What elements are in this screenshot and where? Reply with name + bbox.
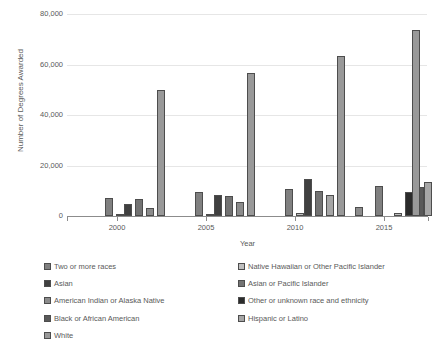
bar xyxy=(285,189,293,216)
legend-swatch-icon xyxy=(238,280,245,287)
x-axis-title: Year xyxy=(67,239,428,248)
bars-layer xyxy=(67,14,428,216)
legend-item[interactable]: White xyxy=(44,327,234,344)
legend-item[interactable]: American Indian or Alaska Native xyxy=(44,292,234,309)
legend: Two or more racesAsianAmerican Indian or… xyxy=(40,258,432,344)
bar xyxy=(412,30,420,216)
x-axis-line xyxy=(67,216,428,217)
bar-chart: 80,00060,00040,00020,0000 Number of Degr… xyxy=(0,0,438,350)
legend-swatch-icon xyxy=(44,315,51,322)
bar xyxy=(225,196,233,216)
legend-item-label: White xyxy=(54,331,73,340)
y-axis: 80,00060,00040,00020,0000 xyxy=(0,0,63,230)
bar xyxy=(195,192,203,216)
x-tick-label: 2010 xyxy=(272,223,318,232)
legend-item-label: American Indian or Alaska Native xyxy=(54,296,164,305)
legend-swatch-icon xyxy=(44,297,51,304)
x-tick-label: 2000 xyxy=(94,223,140,232)
x-tick-mark xyxy=(295,217,296,221)
x-axis-endcap xyxy=(428,217,429,221)
legend-item[interactable]: Asian or Pacific Islander xyxy=(238,275,428,292)
y-tick-label: 40,000 xyxy=(3,111,63,119)
legend-swatch-icon xyxy=(44,280,51,287)
legend-item[interactable]: Hispanic or Latino xyxy=(238,310,428,327)
bar xyxy=(146,208,154,216)
bar xyxy=(157,90,165,216)
x-tick-label: 2005 xyxy=(183,223,229,232)
legend-item[interactable]: Black or African American xyxy=(44,310,234,327)
x-axis-endcap xyxy=(67,217,68,221)
bar xyxy=(355,207,363,216)
y-tick-label: 0 xyxy=(3,212,63,220)
bar xyxy=(124,204,132,216)
y-tick-label: 20,000 xyxy=(3,162,63,170)
legend-item-label: Hispanic or Latino xyxy=(248,314,308,323)
x-tick-label: 2015 xyxy=(361,223,407,232)
bar xyxy=(375,186,383,216)
bar xyxy=(214,195,222,216)
bar xyxy=(105,198,113,216)
x-tick-mark xyxy=(206,217,207,221)
legend-swatch-icon xyxy=(44,332,51,339)
bar xyxy=(304,179,312,216)
legend-column-right: Native Hawaiian or Other Pacific Islande… xyxy=(238,258,428,327)
legend-item-label: Native Hawaiian or Other Pacific Islande… xyxy=(248,262,385,271)
legend-swatch-icon xyxy=(238,297,245,304)
legend-item[interactable]: Other or unknown race and ethnicity xyxy=(238,292,428,309)
legend-item[interactable]: Native Hawaiian or Other Pacific Islande… xyxy=(238,258,428,275)
bar xyxy=(315,191,323,216)
legend-item-label: Other or unknown race and ethnicity xyxy=(248,296,368,305)
legend-item-label: Two or more races xyxy=(54,262,116,271)
legend-swatch-icon xyxy=(44,263,51,270)
y-tick-label: 60,000 xyxy=(3,61,63,69)
legend-item[interactable]: Two or more races xyxy=(44,258,234,275)
legend-swatch-icon xyxy=(238,263,245,270)
bar xyxy=(236,202,244,216)
legend-item-label: Asian xyxy=(54,279,73,288)
y-tick-label: 80,000 xyxy=(3,10,63,18)
bar xyxy=(424,182,432,216)
y-axis-title: Number of Degrees Awarded xyxy=(16,21,25,181)
bar xyxy=(337,56,345,216)
x-tick-mark xyxy=(384,217,385,221)
legend-item[interactable]: Asian xyxy=(44,275,234,292)
legend-item-label: Asian or Pacific Islander xyxy=(248,279,328,288)
legend-swatch-icon xyxy=(238,315,245,322)
bar xyxy=(247,73,255,216)
bar xyxy=(326,195,334,216)
legend-item-label: Black or African American xyxy=(54,314,139,323)
x-tick-mark xyxy=(117,217,118,221)
bar xyxy=(135,199,143,216)
legend-column-left: Two or more racesAsianAmerican Indian or… xyxy=(44,258,234,344)
